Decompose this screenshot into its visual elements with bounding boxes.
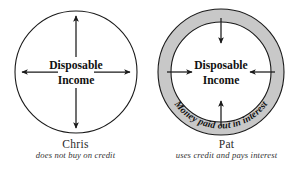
panel-pat: Disposable Income Money paid out in inte… [151,0,302,177]
chris-center-label-line1: Disposable [49,59,102,72]
pat-description: uses credit and pays interest [151,151,302,160]
panel-chris: Disposable Income Chris does not buy on … [0,0,151,177]
chris-description: does not buy on credit [0,151,151,160]
disposable-income-diagram: Disposable Income Chris does not buy on … [0,0,302,177]
chris-person-name: Chris [0,138,151,150]
chris-center-label-line2: Income [58,74,95,87]
chris-caption: Chris does not buy on credit [0,138,151,161]
pat-person-name: Pat [151,138,302,150]
pat-center-label-line1: Disposable [194,59,247,72]
pat-caption: Pat uses credit and pays interest [151,138,302,161]
pat-circle-figure: Disposable Income Money paid out in inte… [151,0,302,145]
pat-center-label-line2: Income [203,74,240,87]
chris-circle-figure: Disposable Income [0,0,151,145]
